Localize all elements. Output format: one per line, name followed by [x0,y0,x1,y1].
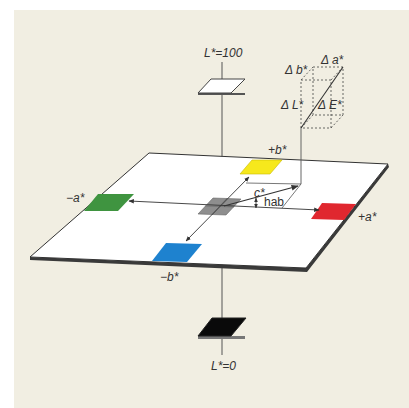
label-minus-b: −b* [160,270,179,284]
white-patch [198,79,245,95]
label-hue-angle: hab [264,195,284,209]
label-l-100: L*=100 [204,46,243,60]
label-minus-a: −a* [66,191,85,205]
label-l-0: L*=0 [211,359,236,373]
label-plus-a: +a* [358,210,377,224]
label-delta-a: Δ a* [320,53,344,67]
label-delta-l: Δ L* [280,98,304,112]
black-patch [198,318,246,339]
label-delta-b: Δ b* [284,63,308,77]
label-delta-e: Δ E* [317,98,342,112]
label-plus-b: +b* [268,143,287,157]
cielab-diagram: L*=100 L*=0 +b* −b* −a* +a* c* hab Δ a* … [0,0,409,408]
